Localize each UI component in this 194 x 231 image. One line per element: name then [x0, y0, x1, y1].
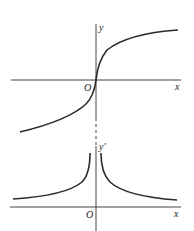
- lower-origin-label: O: [86, 210, 93, 220]
- upper-y-axis-label: y: [99, 23, 103, 33]
- derivative-figure: y O x y' O x: [0, 0, 194, 231]
- upper-origin-label: O: [84, 83, 91, 93]
- lower-x-axis-label: x: [174, 209, 178, 219]
- lower-y-axis-label: y': [99, 142, 106, 152]
- figure-canvas: [0, 0, 194, 231]
- lower-curve-left-branch: [13, 153, 90, 199]
- lower-curve-right-branch: [101, 153, 177, 200]
- upper-x-axis-label: x: [175, 82, 179, 92]
- upper-curve-cube-root: [20, 30, 178, 132]
